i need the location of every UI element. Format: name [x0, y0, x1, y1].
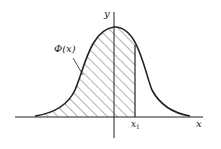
curve-label: Φ(x) [54, 43, 76, 54]
curve-label-leader [73, 58, 83, 75]
x-axis-label: x [196, 118, 202, 129]
y-axis-label: y [103, 8, 110, 19]
cdf-hatched-area [35, 27, 135, 117]
x1-label: x1 [131, 119, 140, 130]
normal-distribution-diagram: y x Φ(x) x1 [0, 0, 221, 149]
